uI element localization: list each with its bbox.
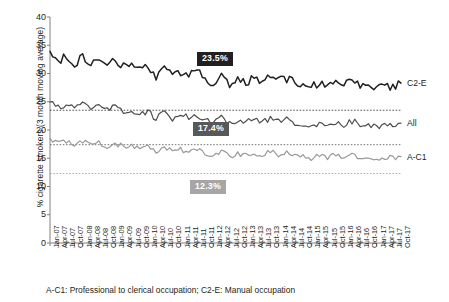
chart-figure: % cigarette smokers (3 month moving aver… (0, 0, 449, 302)
x-axis-tick-jan-08: Jan-08 (86, 225, 93, 248)
x-axis-tick-jul-15: Jul-15 (331, 228, 338, 248)
x-axis-tick-jan-14: Jan-14 (282, 225, 289, 248)
x-axis-tick-apr-17: Apr-17 (388, 226, 395, 248)
x-axis-tick-apr-09: Apr-09 (126, 226, 133, 248)
series-label-all: All (407, 118, 417, 128)
x-axis-tick-oct-13: Oct-13 (273, 226, 280, 248)
x-axis-tick-oct-17: Oct-17 (404, 226, 411, 248)
x-axis-tick-jul-09: Jul-09 (135, 228, 142, 248)
x-axis-tick-apr-15: Apr-15 (322, 226, 329, 248)
x-axis-tick-oct-16: Oct-16 (371, 226, 378, 248)
callout-all: 17.4% (193, 122, 229, 136)
x-axis-tick-jul-12: Jul-12 (233, 228, 240, 248)
x-axis-tick-oct-10: Oct-10 (175, 226, 182, 248)
x-axis-tick-oct-15: Oct-15 (339, 226, 346, 248)
series-label-a-c1: A-C1 (407, 152, 427, 162)
x-axis-tick-apr-14: Apr-14 (290, 226, 297, 248)
x-axis-tick-jan-11: Jan-11 (184, 226, 191, 248)
chart-caption: A-C1: Professional to clerical occupatio… (46, 285, 295, 295)
callout-a-c1: 12.3% (190, 180, 226, 194)
series-label-c2-e: C2-E (407, 78, 427, 88)
x-axis-tick-apr-12: Apr-12 (224, 226, 231, 248)
x-axis-tick-oct-07: Oct-07 (77, 226, 84, 248)
callout-c2-e: 23.5% (197, 52, 233, 66)
x-axis-tick-labels: Jan-07Apr-07Jul-07Oct-07Jan-08Apr-08Jul-… (0, 0, 449, 302)
x-axis-tick-jan-17: Jan-17 (380, 225, 387, 248)
